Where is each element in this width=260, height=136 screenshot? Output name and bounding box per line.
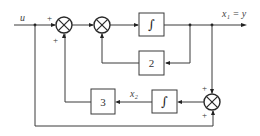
feedback-wire xyxy=(102,34,139,63)
gain-2-label: 2 xyxy=(149,57,155,69)
arrow-head xyxy=(165,61,170,65)
x2-label: x₂ xyxy=(129,88,138,99)
integral-symbol: ∫ xyxy=(148,17,155,32)
sign-plus: + xyxy=(47,13,52,23)
feedforward-wire xyxy=(35,25,213,126)
arrow-head xyxy=(115,100,120,104)
sign-plus: + xyxy=(202,110,207,120)
summer-3 xyxy=(204,94,220,110)
arrow-head xyxy=(100,33,104,38)
arrow-head xyxy=(177,100,182,104)
feedback-wire xyxy=(166,25,190,63)
arrow-head xyxy=(51,23,56,27)
arrow-head xyxy=(210,89,214,94)
integral-symbol: ∫ xyxy=(161,94,168,109)
sign-plus: + xyxy=(202,83,207,93)
summer-2 xyxy=(94,17,110,33)
summer-1 xyxy=(56,17,72,33)
output-label: x₁ = y xyxy=(221,8,247,19)
gain-3-label: 3 xyxy=(100,96,106,108)
arrow-head xyxy=(89,23,94,27)
feedback-wire xyxy=(65,34,91,102)
arrow-head xyxy=(211,110,215,115)
block-diagram: ∫ 2 ∫ x₂ 3 u x₁ = y + + + + xyxy=(0,0,260,136)
sign-plus: + xyxy=(53,35,58,45)
arrow-head xyxy=(241,23,247,27)
input-label: u xyxy=(20,12,25,23)
arrow-head xyxy=(134,23,139,27)
